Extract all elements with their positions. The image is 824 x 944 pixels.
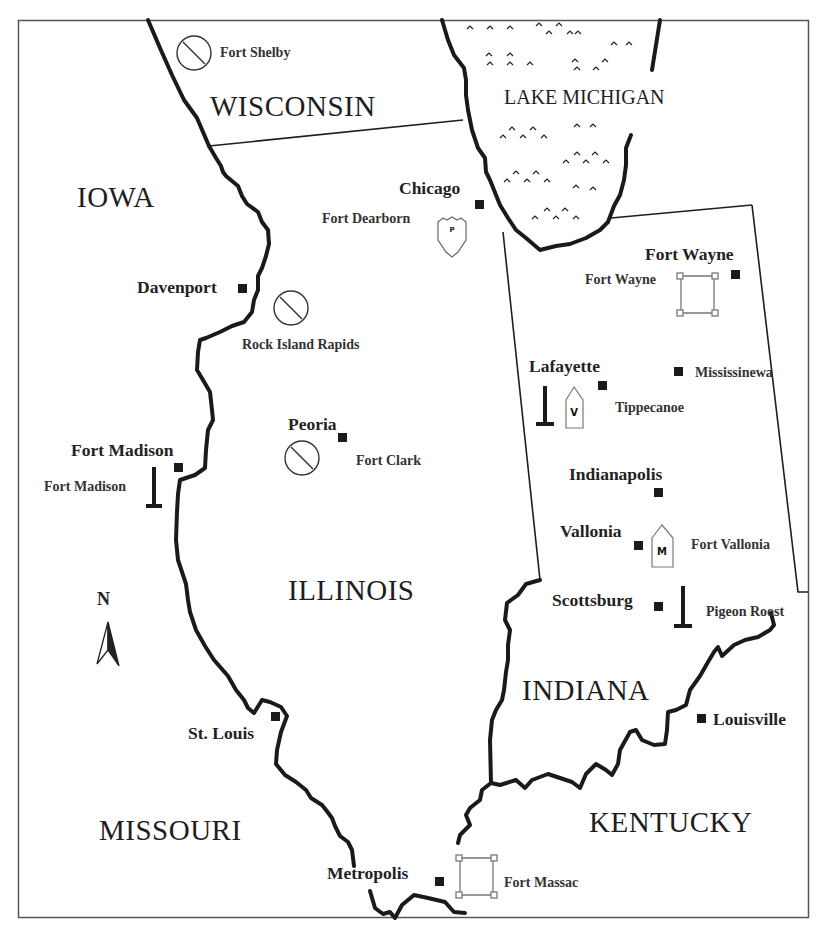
city-marker-lafayette xyxy=(598,381,607,390)
site-label-fort-dearborn: Fort Dearborn xyxy=(322,212,410,226)
state-label-missouri: MISSOURI xyxy=(99,816,242,845)
ohio-river-lower xyxy=(370,891,465,918)
fort-clark-prohibited-icon xyxy=(285,441,319,475)
fort-dearborn-shield-icon: P xyxy=(438,217,466,257)
city-label-fort-madison: Fort Madison xyxy=(71,442,174,460)
wabash-river xyxy=(458,580,540,843)
site-label-fort-shelby: Fort Shelby xyxy=(220,46,290,60)
city-label-indianapolis: Indianapolis xyxy=(569,466,662,484)
svg-text:V: V xyxy=(570,407,578,418)
svg-text:M: M xyxy=(657,546,667,557)
site-label-fort-clark: Fort Clark xyxy=(356,454,421,468)
fort-wayne-fort-icon xyxy=(677,273,718,316)
city-label-mississinewa: Mississinewa xyxy=(695,366,773,380)
map-frame xyxy=(19,21,809,918)
tippecanoe-house-icon: V xyxy=(566,387,583,428)
city-label-chicago: Chicago xyxy=(399,180,460,198)
state-label-iowa: IOWA xyxy=(77,183,155,212)
historical-map: P V M xyxy=(0,0,824,944)
illinois-indiana-border xyxy=(503,232,540,580)
city-label-peoria: Peoria xyxy=(288,416,337,434)
site-label-rock-island-rapids: Rock Island Rapids xyxy=(242,338,360,352)
city-marker-chicago xyxy=(475,200,484,209)
site-label-fort-massac: Fort Massac xyxy=(504,876,578,890)
city-label-vallonia: Vallonia xyxy=(560,523,622,541)
state-label-wisconsin: WISCONSIN xyxy=(210,92,376,121)
city-marker-davenport xyxy=(238,284,247,293)
city-marker-louisville xyxy=(697,714,706,723)
city-marker-metropolis xyxy=(435,877,444,886)
rock-island-prohibited-icon xyxy=(274,291,308,325)
city-label-metropolis: Metropolis xyxy=(327,865,408,883)
state-label-indiana: INDIANA xyxy=(522,676,650,705)
site-label-fort-vallonia: Fort Vallonia xyxy=(691,538,770,552)
site-label-fort-madison: Fort Madison xyxy=(44,480,126,494)
city-label-st-louis: St. Louis xyxy=(188,725,254,743)
city-label-davenport: Davenport xyxy=(137,279,217,297)
site-label-fort-wayne: Fort Wayne xyxy=(585,273,656,287)
state-label-kentucky: KENTUCKY xyxy=(589,808,753,837)
mississippi-river xyxy=(176,146,354,866)
city-marker-mississinewa xyxy=(674,367,683,376)
fort-vallonia-house-icon: M xyxy=(652,525,673,567)
fort-massac-fort-icon xyxy=(456,855,497,898)
map-lines: P V M xyxy=(0,0,824,944)
lafayette-monument-icon xyxy=(536,386,554,426)
fort-madison-monument-icon xyxy=(146,467,162,508)
lake-michigan-east-shore xyxy=(652,20,660,70)
compass-north-label: N xyxy=(97,590,110,608)
city-marker-fort-wayne xyxy=(731,270,740,279)
city-marker-scottsburg xyxy=(654,602,663,611)
lake-michigan-label: LAKE MICHIGAN xyxy=(504,87,665,107)
pigeon-roost-monument-icon xyxy=(674,586,692,628)
city-label-scottsburg: Scottsburg xyxy=(552,592,633,610)
city-label-fort-wayne: Fort Wayne xyxy=(645,246,734,264)
wisconsin-illinois-border xyxy=(209,120,463,146)
indiana-michigan-border xyxy=(611,205,752,218)
city-marker-vallonia xyxy=(634,541,643,550)
svg-text:P: P xyxy=(449,226,454,234)
state-label-illinois: ILLINOIS xyxy=(288,576,414,605)
indiana-ohio-border xyxy=(752,205,808,592)
city-marker-peoria xyxy=(338,433,347,442)
site-label-tippecanoe: Tippecanoe xyxy=(615,401,684,415)
lake-michigan-west-shore xyxy=(442,20,631,250)
city-marker-st-louis xyxy=(271,712,280,721)
mississippi-river-upper xyxy=(148,20,209,146)
city-label-lafayette: Lafayette xyxy=(529,358,600,376)
fort-shelby-prohibited-icon xyxy=(177,36,211,70)
north-arrow-icon xyxy=(97,622,119,666)
city-label-louisville: Louisville xyxy=(713,711,786,729)
city-marker-fort-madison xyxy=(174,463,183,472)
city-marker-indianapolis xyxy=(654,488,663,497)
site-label-pigeon-roost: Pigeon Roost xyxy=(706,605,784,619)
